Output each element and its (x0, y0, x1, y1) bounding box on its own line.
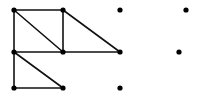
edge-b-g (63, 10, 120, 52)
node-group (11, 7, 188, 90)
node-b (60, 7, 65, 12)
node-e (11, 49, 16, 54)
edge-e-j (14, 52, 63, 88)
node-d (183, 7, 188, 12)
node-i (11, 85, 16, 90)
node-h (176, 49, 181, 54)
node-k (117, 85, 122, 90)
node-g (117, 49, 122, 54)
node-c (117, 7, 122, 12)
node-f (60, 49, 65, 54)
node-j (60, 85, 65, 90)
edge-group (14, 10, 120, 88)
node-a (11, 7, 16, 12)
edge-a-f (14, 10, 63, 52)
graph-diagram (0, 0, 198, 100)
